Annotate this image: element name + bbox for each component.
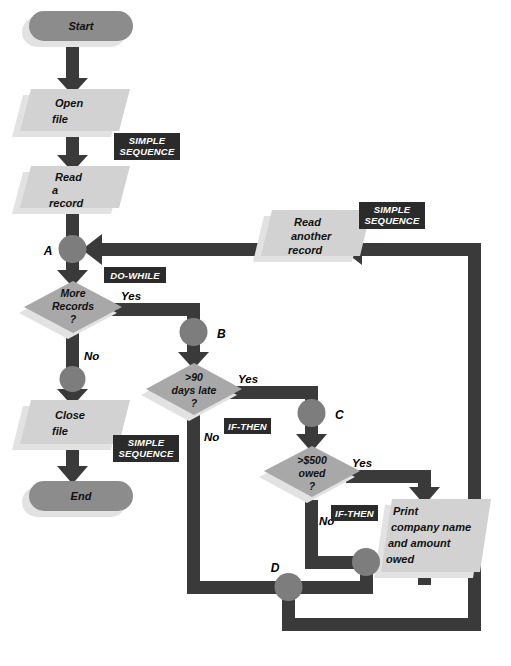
node-start[interactable]: Start	[29, 11, 133, 41]
days-late-line-1: >90	[185, 371, 203, 383]
node-read-record[interactable]: Read a record	[20, 166, 130, 209]
days-late-line-3: ?	[191, 397, 198, 409]
more-records-line-2: Records	[52, 300, 94, 312]
close-file-line-2: file	[52, 425, 68, 437]
owed-line-3: ?	[309, 480, 316, 492]
owed-line-1: >$500	[297, 454, 327, 466]
flowline-dayslate-yes-h	[228, 386, 318, 399]
node-more-records[interactable]: More Records ?	[24, 281, 122, 333]
tag-simple-sequence-1-line-2: SEQUENCE	[120, 146, 175, 157]
flowline-more-yes-h	[110, 303, 200, 316]
tag-do-while: DO-WHILE	[104, 267, 166, 283]
node-days-late[interactable]: >90 days late ?	[146, 363, 242, 415]
node-owed[interactable]: >$500 owed ?	[264, 446, 360, 497]
connector-a[interactable]: A	[43, 235, 87, 263]
read-another-line-3: record	[288, 244, 323, 256]
flowchart-canvas: Start Open file Read a record A More Rec…	[0, 0, 511, 666]
tag-simple-sequence-3: SIMPLE SEQUENCE	[113, 435, 179, 462]
print-line-4: owed	[386, 553, 414, 565]
tag-simple-sequence-2: SIMPLE SEQUENCE	[359, 202, 425, 229]
tag-simple-sequence-3-line-1: SIMPLE	[128, 437, 165, 448]
connector-b-letter: B	[217, 327, 226, 341]
connector-print-join[interactable]	[352, 548, 380, 576]
open-file-shape	[20, 89, 130, 131]
start-label: Start	[68, 20, 94, 32]
flowline-merge-into-a	[95, 243, 270, 256]
connector-a-circle	[59, 235, 87, 263]
flowline-dayslate-no-v	[187, 415, 200, 593]
read-record-line-2: a	[52, 184, 58, 196]
branch-label-days-late-yes: Yes	[238, 373, 258, 385]
tag-if-then-1-line-1: IF-THEN	[228, 421, 268, 432]
connector-d-circle	[275, 573, 303, 601]
node-end[interactable]: End	[29, 481, 133, 511]
read-another-line-1: Read	[294, 216, 321, 228]
owed-line-2: owed	[299, 467, 326, 479]
node-open-file[interactable]: Open file	[20, 89, 130, 131]
connector-a-letter: A	[43, 244, 53, 258]
open-file-line-2: file	[52, 113, 68, 125]
connector-b[interactable]: B	[180, 318, 227, 346]
read-record-line-1: Read	[55, 171, 82, 183]
more-records-line-1: More	[60, 287, 85, 299]
branch-label-owed-yes: Yes	[352, 457, 372, 469]
tag-do-while-line-1: DO-WHILE	[110, 270, 160, 281]
print-line-2: company name	[391, 521, 471, 533]
tag-if-then-2-line-1: IF-THEN	[335, 508, 375, 519]
print-line-3: and amount	[388, 537, 452, 549]
tag-simple-sequence-2-line-1: SIMPLE	[374, 204, 411, 215]
node-read-another[interactable]: Read another record	[261, 210, 371, 256]
read-record-line-3: record	[49, 197, 84, 209]
tag-simple-sequence-3-line-2: SEQUENCE	[119, 448, 174, 459]
tag-simple-sequence-2-line-2: SEQUENCE	[365, 215, 420, 226]
connector-no-more-records[interactable]	[60, 366, 86, 392]
node-print[interactable]: Print company name and amount owed	[381, 499, 491, 572]
connector-c-circle	[298, 399, 326, 427]
days-late-line-2: days late	[172, 384, 217, 396]
flowline-dayslate-no-h	[187, 581, 282, 594]
tag-simple-sequence-1-line-1: SIMPLE	[129, 135, 166, 146]
read-another-line-2: another	[291, 230, 332, 242]
tag-simple-sequence-1: SIMPLE SEQUENCE	[114, 133, 180, 160]
branch-label-days-late-no: No	[204, 431, 219, 443]
print-line-1: Print	[393, 505, 419, 517]
connector-no-more-circle	[60, 366, 86, 392]
connector-c-letter: C	[335, 408, 344, 422]
flowchart-svg: Start Open file Read a record A More Rec…	[0, 0, 511, 666]
connector-print-join-circle	[352, 548, 380, 576]
branch-label-more-records-no: No	[84, 350, 99, 362]
flowline-top-rail	[355, 243, 481, 256]
connector-d-letter: D	[271, 561, 280, 575]
branch-label-more-records-yes: Yes	[121, 290, 141, 302]
more-records-line-3: ?	[70, 313, 77, 325]
connector-c[interactable]: C	[298, 399, 345, 427]
tag-if-then-1: IF-THEN	[224, 418, 271, 434]
flowline-bottom-rail	[282, 618, 481, 631]
open-file-line-1: Open	[55, 97, 83, 109]
close-file-line-1: Close	[55, 409, 85, 421]
tag-if-then-2: IF-THEN	[331, 505, 378, 521]
end-label: End	[71, 490, 92, 502]
connector-b-circle	[180, 318, 208, 346]
